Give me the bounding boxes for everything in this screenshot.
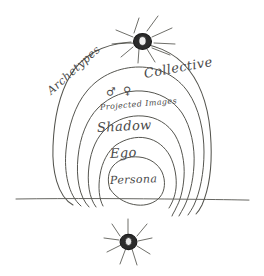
label-shadow: Shadow (97, 117, 152, 135)
bottom-star-core (120, 234, 137, 249)
label-ego: Ego (110, 145, 138, 161)
baseline (16, 199, 249, 201)
label-persona: Persona (110, 172, 158, 187)
sketch-canvas: Archetypes Collective ♂ ♀ Projected Imag… (0, 0, 264, 276)
top-star-core (134, 34, 152, 50)
label-animus-anima-symbols: ♂ ♀ (106, 84, 134, 99)
arc-animus-anima (66, 67, 204, 215)
sketch-drawing (0, 0, 264, 276)
